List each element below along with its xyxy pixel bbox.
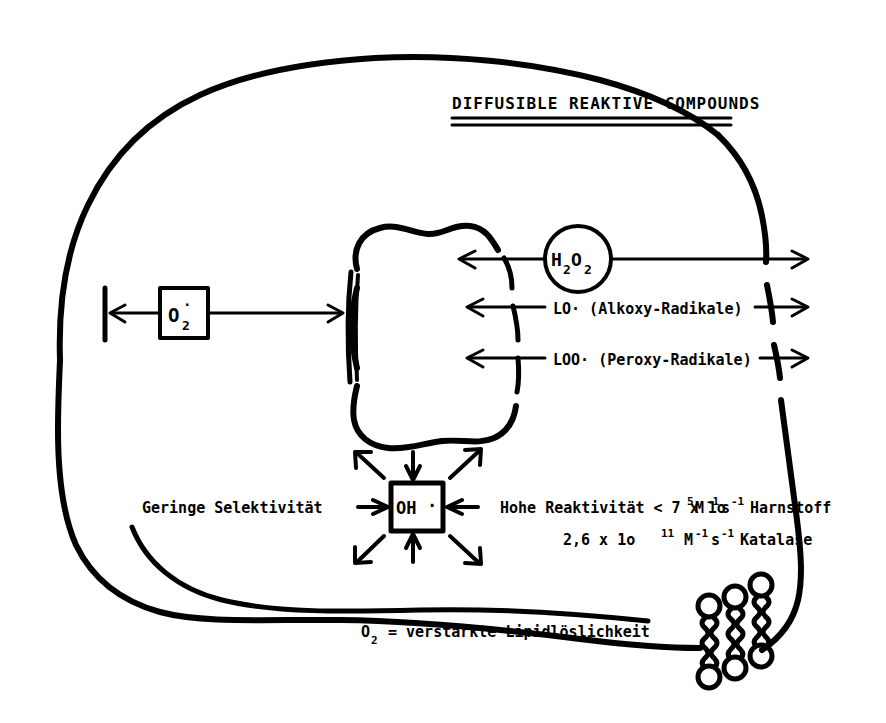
phospholipid-group xyxy=(698,574,772,688)
reactivity-line1-unit-molar: M xyxy=(695,499,704,517)
phospholipid-head-icon xyxy=(724,586,746,608)
alkoxy-radical-transport-row: LO· (Alkoxy-Radikale) xyxy=(467,299,808,318)
hydroxyl-arrow-in-right xyxy=(447,500,478,514)
phospholipid-tail-end-icon xyxy=(698,666,720,688)
superoxide-radical-dot: · xyxy=(183,297,191,313)
hydroxyl-arrow-in-left xyxy=(358,500,388,514)
superoxide-subscript: 2 xyxy=(182,318,190,333)
selectivity-annotation: Geringe Selektivität xyxy=(142,499,323,517)
diagram-canvas: DIFFUSIBLE REAKTIVE COMPOUNDS O 2 · H 2 … xyxy=(0,0,886,723)
reactivity-line1-suffix: Harnstoff xyxy=(750,499,831,517)
h2o2-o: O xyxy=(571,249,582,270)
reactivity-line2-unit-molar-exponent: -1 xyxy=(695,527,709,540)
hydroxyl-arrow-out-downleft xyxy=(355,536,384,563)
figure-title: DIFFUSIBLE REAKTIVE COMPOUNDS xyxy=(452,94,760,125)
reactivity-line1-unit-molar-exponent: -1 xyxy=(706,495,720,508)
lipid-solubility-o: O xyxy=(361,623,370,641)
figure-title-text: DIFFUSIBLE REAKTIVE COMPOUNDS xyxy=(452,94,760,113)
reactivity-line1-unit-seconds: s xyxy=(721,499,730,517)
phospholipid-molecule xyxy=(698,595,720,688)
peroxy-radical-label: LOO· (Peroxy-Radikale) xyxy=(553,351,752,369)
hydroxyl-arrow-out-upright xyxy=(450,449,481,478)
superoxide-transport-row: O 2 · xyxy=(105,288,343,340)
alkoxy-radical-label: LO· (Alkoxy-Radikale) xyxy=(553,300,743,318)
phospholipid-molecule xyxy=(724,586,746,679)
hydroxyl-arrow-in-top xyxy=(406,452,420,480)
phospholipid-head-icon xyxy=(698,595,720,617)
reactivity-annotation: Hohe Reaktivität < 7 x 1o 5 M -1 s -1 Ha… xyxy=(500,495,831,549)
superoxide-label: O xyxy=(168,304,179,326)
reactivity-line2-unit-seconds-exponent: -1 xyxy=(721,527,735,540)
hydroxyl-arrow-out-downright xyxy=(450,536,481,564)
h2o2-sub1: 2 xyxy=(563,262,571,277)
reactivity-line1-exponent: 5 xyxy=(687,495,694,508)
reactivity-line2-unit-molar: M xyxy=(684,531,693,549)
reactivity-line2-suffix: Katalase xyxy=(740,531,812,549)
hydroxyl-radical-cluster: OH · xyxy=(355,449,481,564)
lipid-solubility-subscript: 2 xyxy=(371,634,378,647)
lipid-solubility-text: = verstärkte Lipidlöslichkeit xyxy=(388,623,650,641)
reactivity-line2-unit-seconds: s xyxy=(711,531,720,549)
phospholipid-tail-end-icon xyxy=(724,657,746,679)
phospholipid-head-icon xyxy=(750,574,772,596)
reactivity-line2-exponent: 11 xyxy=(661,527,675,540)
hydroxyl-arrow-out-upleft xyxy=(355,452,384,478)
hydroxyl-radical-dot: · xyxy=(427,496,437,516)
reactivity-line2-prefix: 2,6 x 1o xyxy=(563,531,635,549)
phospholipid-molecule xyxy=(750,574,772,667)
h2o2-sub2: 2 xyxy=(584,262,592,277)
hydroxyl-arrow-in-bottom xyxy=(406,534,420,562)
reactivity-line1-unit-seconds-exponent: -1 xyxy=(731,495,745,508)
h2o2-h: H xyxy=(551,249,562,270)
hydroxyl-label: OH xyxy=(396,498,416,518)
